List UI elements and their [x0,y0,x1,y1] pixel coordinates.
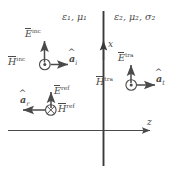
reflected-E-superscript: ref [61,85,69,91]
diagram-vector-graphics [0,0,187,174]
reflected-unit-vector-subscript: r [26,100,29,108]
incident-E-label: Einc [25,29,41,39]
reflected-unit-vector-label: ar [20,95,29,107]
physics-diagram-plane-wave-interface: ε₁, μ₁ ε₂, μ₂, σ₂ x z Einc Hinc ai Eref … [0,0,187,174]
transmitted-E-symbol: E [118,53,125,63]
reflected-unit-vector-symbol: a [20,95,26,105]
x-axis-label: x [108,40,113,49]
transmitted-E-superscript: tra [125,52,134,58]
transmitted-unit-vector-subscript: t [162,79,165,87]
transmitted-unit-vector-label: at [156,74,165,86]
incident-H-superscript: inc [16,56,25,62]
incident-unit-vector-symbol: a [69,54,75,64]
transmitted-E-label: Etra [118,53,134,63]
transmitted-H-symbol: H [96,77,104,87]
region2-material-label: ε₂, μ₂, σ₂ [114,12,155,22]
z-axis-label: z [147,118,152,127]
incident-H-label: Hinc [8,57,25,67]
incident-E-symbol: E [25,29,32,39]
region1-material-label: ε₁, μ₁ [62,12,87,22]
incident-unit-vector-label: ai [69,54,77,66]
transmitted-unit-vector-symbol: a [156,74,162,84]
reflected-H-superscript: ref [66,103,74,109]
incident-unit-vector-subscript: i [75,59,77,67]
transmitted-H-superscript: tra [104,76,113,82]
incident-E-superscript: inc [32,28,41,34]
incident-H-symbol: H [8,57,16,67]
reflected-E-label: Eref [54,86,69,96]
transmitted-H-label: Htra [96,77,113,87]
reflected-E-symbol: E [54,86,61,96]
reflected-H-label: Href [58,104,75,114]
reflected-H-symbol: H [58,104,66,114]
